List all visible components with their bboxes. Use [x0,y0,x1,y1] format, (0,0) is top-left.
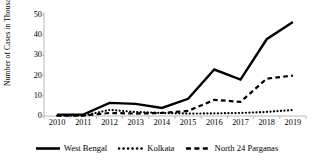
chart-screenshot: Number of Cases in Thousand 01020304050 … [0,0,313,162]
legend-item[interactable]: Kolkata [118,144,174,153]
legend-swatch-dotted-icon [118,144,144,153]
legend-label: North 24 Parganas [214,144,278,153]
chart-plot [0,0,313,162]
legend-label: Kolkata [147,144,174,153]
legend-item[interactable]: West Bengal [35,144,107,153]
chart-series [57,22,293,116]
chart-legend: West BengalKolkataNorth 24 Parganas [0,139,313,157]
legend-item[interactable]: North 24 Parganas [185,144,278,153]
legend-swatch-solid-icon [35,144,61,153]
series-line-west-bengal [57,22,293,115]
legend-label: West Bengal [64,144,107,153]
legend-swatch-dashed-icon [185,144,211,153]
